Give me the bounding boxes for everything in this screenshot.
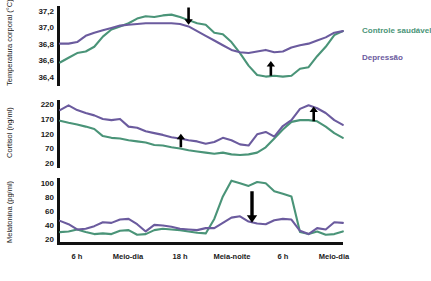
- y-axis-label-melatonin: Melatonina (pg/ml): [6, 180, 28, 244]
- series-line-control: [60, 120, 343, 155]
- annotation-arrow-down: [247, 191, 257, 223]
- y-tick: 220: [41, 101, 54, 109]
- x-axis-labels: 6 h Meio-dia 18 h Meia-noite 6 h Meio-di…: [60, 252, 360, 266]
- x-tick-label: 18 h: [172, 252, 187, 261]
- x-tick-label: 6 h: [72, 252, 83, 261]
- annotation-arrow-up: [267, 61, 275, 76]
- panel-melatonin: Melatonina (pg/ml) 100 80 60 40 20 6 h M…: [0, 172, 423, 281]
- y-axis-ticks-melatonin: 100 80 60 40 20: [28, 172, 54, 252]
- y-tick: 70: [45, 145, 54, 153]
- legend: Controle saudável Depressão: [362, 0, 423, 70]
- x-tick-label: Meio-dia: [113, 252, 143, 261]
- temperature-curves: [60, 6, 360, 86]
- x-tick-label: Meio-dia: [319, 252, 349, 261]
- y-axis-ticks-temperature: 37,2 37,0 36,8 36,6 36,4: [28, 0, 54, 92]
- x-axis-line: [57, 242, 343, 245]
- cortisol-curves: [60, 100, 360, 168]
- y-tick: 36,6: [38, 57, 54, 65]
- series-line-control: [60, 181, 343, 235]
- y-axis-ticks-cortisol: 220 170 120 70 20: [28, 92, 54, 172]
- panel-temperature: Temperatura corporal (°C) 37,2 37,0 36,8…: [0, 0, 423, 92]
- plot-area-melatonin: [60, 178, 360, 242]
- y-tick: 60: [45, 208, 54, 216]
- y-tick: 36,8: [38, 41, 54, 49]
- plot-area-cortisol: [60, 100, 360, 168]
- y-tick: 170: [41, 116, 54, 124]
- y-tick: 20: [45, 160, 54, 168]
- y-tick: 40: [45, 222, 54, 230]
- legend-item-depression: Depressão: [362, 53, 403, 62]
- y-axis-label-temperature: Temperatura corporal (°C): [6, 8, 28, 86]
- y-axis-label-cortisol: Cortisol (ng/ml): [6, 100, 28, 166]
- y-tick: 37,0: [38, 24, 54, 32]
- y-tick: 37,2: [38, 8, 54, 16]
- plot-area-temperature: [60, 6, 360, 86]
- melatonin-curves: [60, 178, 360, 242]
- y-tick: 80: [45, 194, 54, 202]
- y-tick: 36,4: [38, 74, 54, 82]
- legend-item-control: Controle saudável: [362, 26, 431, 35]
- x-tick-label: Meia-noite: [213, 252, 250, 261]
- series-line-depression: [60, 216, 343, 234]
- y-tick: 20: [45, 236, 54, 244]
- y-tick: 100: [41, 180, 54, 188]
- y-tick: 120: [41, 131, 54, 139]
- panel-cortisol: Cortisol (ng/ml) 220 170 120 70 20: [0, 92, 423, 172]
- series-line-depression: [60, 105, 343, 145]
- annotation-arrow-up: [177, 134, 185, 148]
- x-tick-label: 6 h: [278, 252, 289, 261]
